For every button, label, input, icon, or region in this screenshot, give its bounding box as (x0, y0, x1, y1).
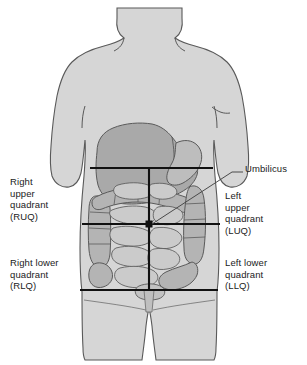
abdominal-quadrants-figure: Right upper quadrant (RUQ) Right lower q… (0, 0, 307, 365)
label-left-upper-quadrant: Left upper quadrant (LUQ) (225, 190, 263, 236)
small-intestine-loop-8 (114, 183, 154, 200)
label-umbilicus: Umbilicus (245, 163, 287, 175)
small-intestine-loop-6 (148, 248, 180, 269)
label-right-lower-quadrant: Right lower quadrant (RLQ) (10, 257, 59, 292)
linea-alba (144, 290, 154, 312)
small-intestine-loop-2 (153, 206, 183, 225)
label-right-upper-quadrant: Right upper quadrant (RUQ) (10, 176, 48, 222)
label-left-lower-quadrant: Left lower quadrant (LLQ) (225, 257, 267, 292)
cecum (89, 263, 113, 288)
umbilicus-marker (146, 221, 153, 228)
abdominal-organs-group (88, 123, 206, 312)
